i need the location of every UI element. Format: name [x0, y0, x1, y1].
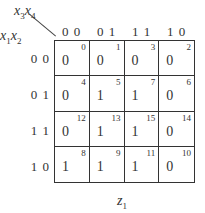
kmap-cell: 17 [125, 76, 160, 111]
kmap-cell: 03 [125, 41, 160, 76]
minterm-index: 4 [81, 77, 86, 87]
minterm-index: 0 [81, 42, 86, 52]
karnaugh-map-grid: 00 01 03 02 04 15 17 06 012 113 115 014 … [54, 40, 195, 183]
cell-value: 1 [132, 88, 139, 104]
row-label: 0 0 [20, 51, 50, 67]
minterm-index: 7 [151, 77, 156, 87]
column-variables: x3x4 [14, 3, 35, 21]
cell-value: 1 [132, 124, 139, 140]
cell-value: 1 [97, 159, 104, 175]
kmap-cell: 010 [159, 147, 194, 182]
cell-value: 1 [97, 124, 104, 140]
kmap-cell: 111 [125, 147, 160, 182]
kmap-cell: 15 [90, 76, 125, 111]
kmap-cell: 18 [55, 147, 90, 182]
kmap-cell: 02 [159, 41, 194, 76]
minterm-index: 8 [81, 148, 86, 158]
cell-value: 0 [166, 124, 173, 140]
kmap-cell: 06 [159, 76, 194, 111]
column-label: 1 1 [124, 24, 159, 40]
minterm-index: 14 [182, 113, 191, 123]
minterm-index: 1 [116, 42, 121, 52]
minterm-index: 6 [187, 77, 192, 87]
minterm-index: 12 [77, 113, 86, 123]
kmap-cell: 19 [90, 147, 125, 182]
kmap-cell: 04 [55, 76, 90, 111]
cell-value: 0 [166, 88, 173, 104]
minterm-index: 5 [116, 77, 121, 87]
column-label: 0 1 [89, 24, 124, 40]
cell-value: 0 [97, 53, 104, 69]
kmap-cell: 00 [55, 41, 90, 76]
kmap-cell: 014 [159, 112, 194, 147]
cell-value: 0 [166, 159, 173, 175]
cell-value: 1 [132, 159, 139, 175]
minterm-index: 2 [187, 42, 192, 52]
cell-value: 1 [62, 159, 69, 175]
cell-value: 0 [166, 53, 173, 69]
minterm-index: 15 [146, 113, 155, 123]
function-label: z1 [117, 193, 127, 211]
cell-value: 0 [62, 88, 69, 104]
minterm-index: 3 [151, 42, 156, 52]
row-label: 1 0 [20, 159, 50, 175]
minterm-index: 13 [112, 113, 121, 123]
cell-value: 0 [62, 124, 69, 140]
row-variables: x1x2 [0, 28, 21, 46]
cell-value: 0 [62, 53, 69, 69]
kmap-cell: 115 [125, 112, 160, 147]
cell-value: 1 [97, 88, 104, 104]
minterm-index: 10 [182, 148, 191, 158]
kmap-cell: 01 [90, 41, 125, 76]
kmap-cell: 012 [55, 112, 90, 147]
row-label: 0 1 [20, 87, 50, 103]
minterm-index: 11 [147, 148, 156, 158]
column-label: 1 0 [159, 24, 194, 40]
cell-value: 0 [132, 53, 139, 69]
kmap-cell: 113 [90, 112, 125, 147]
column-label: 0 0 [54, 24, 89, 40]
row-label: 1 1 [20, 123, 50, 139]
minterm-index: 9 [116, 148, 121, 158]
